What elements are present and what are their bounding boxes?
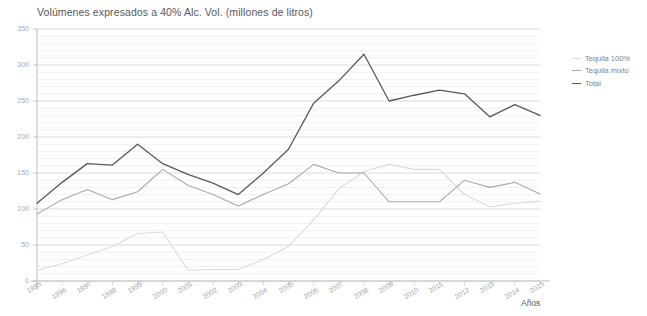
y-axis-tick-label: 0 bbox=[3, 277, 29, 284]
chart-legend: Tequila 100%Tequila mixtoTotal bbox=[572, 52, 630, 90]
legend-swatch-icon bbox=[572, 70, 581, 71]
y-axis-tick-label: 300 bbox=[3, 61, 29, 68]
series-line bbox=[37, 164, 540, 214]
legend-label: Tequila 100% bbox=[585, 54, 630, 63]
y-axis-tick-label: 150 bbox=[3, 169, 29, 176]
legend-item[interactable]: Total bbox=[572, 77, 630, 90]
legend-label: Tequila mixto bbox=[585, 66, 629, 75]
minor-gridlines bbox=[37, 29, 540, 281]
x-axis-label: Años bbox=[521, 298, 540, 308]
y-axis-tick-label: 100 bbox=[3, 205, 29, 212]
legend-item[interactable]: Tequila 100% bbox=[572, 52, 630, 65]
legend-swatch-icon bbox=[572, 58, 581, 59]
y-axis-tick-label: 50 bbox=[3, 241, 29, 248]
chart-plot-area bbox=[0, 0, 647, 316]
legend-label: Total bbox=[585, 79, 601, 88]
y-axis-tick-label: 250 bbox=[3, 97, 29, 104]
chart-container: Volúmenes expresados a 40% Alc. Vol. (mi… bbox=[0, 0, 647, 316]
y-axis-tick-label: 350 bbox=[3, 25, 29, 32]
y-axis-tick-label: 200 bbox=[3, 133, 29, 140]
major-gridlines bbox=[37, 29, 540, 281]
legend-item[interactable]: Tequila mixto bbox=[572, 65, 630, 78]
legend-swatch-icon bbox=[572, 83, 581, 84]
